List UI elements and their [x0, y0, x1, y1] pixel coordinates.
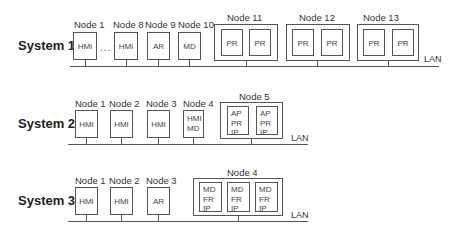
node-box: AR: [147, 32, 170, 60]
unit-box: PR: [321, 29, 343, 56]
node-label: Node 2: [109, 98, 140, 109]
role-label: MD: [231, 185, 243, 195]
lan-label: LAN: [291, 133, 309, 143]
unit-box: AP PR IP: [227, 106, 249, 135]
node-label: Node 1: [75, 175, 106, 186]
unit-box: AP PR IP: [256, 106, 278, 135]
role-label: FR: [231, 195, 243, 205]
node-label: Node 4: [183, 98, 214, 109]
node-box: HMI: [110, 110, 133, 138]
role-label: PR: [260, 119, 271, 129]
unit-box: MD FR IP: [255, 182, 278, 212]
role-label: IP: [203, 204, 215, 214]
role-list: AP PR IP: [231, 109, 242, 138]
role-label: HMI: [148, 120, 169, 129]
system-label: System 3: [18, 193, 75, 208]
role-label: PR: [250, 38, 270, 47]
system-label: System 1: [18, 38, 75, 53]
role-label: PR: [364, 38, 384, 47]
role-label: AP: [260, 109, 271, 119]
system-label: System 2: [18, 116, 75, 131]
role-label: HMI: [111, 120, 132, 129]
role-label: AR: [148, 42, 169, 51]
role-list: MD FR IP: [231, 185, 243, 214]
lan-label: LAN: [424, 54, 442, 64]
node-box: HMI: [110, 187, 133, 215]
node-label: Node 13: [363, 12, 399, 23]
node-box: MD: [178, 32, 201, 60]
role-label: HMI: [111, 197, 132, 206]
node-label: Node 1: [75, 98, 106, 109]
role-label: PR: [222, 38, 242, 47]
ellipsis: ...: [100, 42, 111, 53]
node-label: Node 5: [239, 91, 270, 102]
node-label: Node 1: [74, 19, 105, 30]
role-label: HMI: [74, 42, 96, 51]
unit-box: PR: [249, 29, 271, 56]
node-box: AR: [147, 187, 170, 215]
role-label: MD: [179, 42, 200, 51]
role-list: MD FR IP: [259, 185, 271, 214]
node-label: Node 2: [109, 175, 140, 186]
lan-label: LAN: [291, 210, 309, 220]
node-label: Node 3: [146, 98, 177, 109]
node-box: HMI: [75, 187, 98, 215]
role-label: HMI: [76, 197, 97, 206]
unit-box: PR: [363, 29, 385, 56]
role-list: AP PR IP: [260, 109, 271, 138]
node-label: Node 9: [145, 19, 176, 30]
role-label: PR: [322, 38, 342, 47]
node-box: HMI: [75, 110, 98, 138]
role-label: IP: [260, 128, 271, 138]
node-label: Node 3: [146, 175, 177, 186]
node-box: HMI: [73, 32, 97, 60]
role-label: IP: [231, 128, 242, 138]
unit-box: MD FR IP: [199, 182, 222, 212]
node-box: PR PR: [214, 24, 278, 61]
role-label: IP: [259, 204, 271, 214]
role-label: PR: [393, 38, 413, 47]
role-label: HMI: [187, 114, 202, 124]
role-label: PR: [293, 38, 313, 47]
role-label: HMI: [115, 42, 137, 51]
role-label: IP: [231, 204, 243, 214]
node-box: AP PR IP AP PR IP: [220, 102, 283, 139]
node-label: Node 12: [299, 12, 335, 23]
role-list: MD FR IP: [203, 185, 215, 214]
node-label: Node 8: [113, 19, 144, 30]
node-label: Node 10: [178, 19, 214, 30]
unit-box: MD FR IP: [227, 182, 250, 212]
node-box: HMI: [114, 32, 138, 60]
role-label: MD: [259, 185, 271, 195]
node-box: HMI MD: [183, 110, 204, 138]
unit-box: PR: [292, 29, 314, 56]
unit-box: PR: [221, 29, 243, 56]
node-box: PR PR: [286, 24, 350, 61]
role-list: HMI MD: [187, 114, 202, 133]
node-label: Node 4: [227, 167, 258, 178]
lan-line: [68, 221, 308, 222]
role-label: AP: [231, 109, 242, 119]
role-label: AR: [148, 197, 169, 206]
node-box: HMI: [147, 110, 170, 138]
role-label: FR: [203, 195, 215, 205]
role-label: FR: [259, 195, 271, 205]
lan-line: [68, 144, 308, 145]
role-label: MD: [187, 124, 202, 134]
role-label: PR: [231, 119, 242, 129]
lan-line: [70, 66, 439, 67]
role-label: HMI: [76, 120, 97, 129]
unit-box: PR: [392, 29, 414, 56]
node-label: Node 11: [227, 12, 262, 23]
role-label: MD: [203, 185, 215, 195]
node-box: PR PR: [357, 24, 419, 61]
node-box: MD FR IP MD FR IP MD FR IP: [193, 178, 283, 216]
